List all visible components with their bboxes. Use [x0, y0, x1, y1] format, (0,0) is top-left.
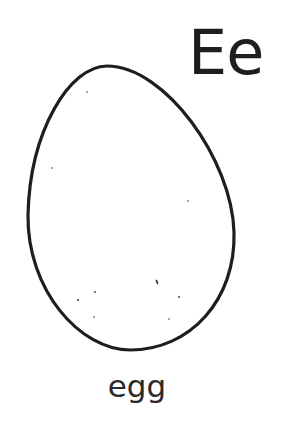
word-label: egg: [0, 366, 272, 406]
egg-outline-icon: [0, 0, 291, 423]
